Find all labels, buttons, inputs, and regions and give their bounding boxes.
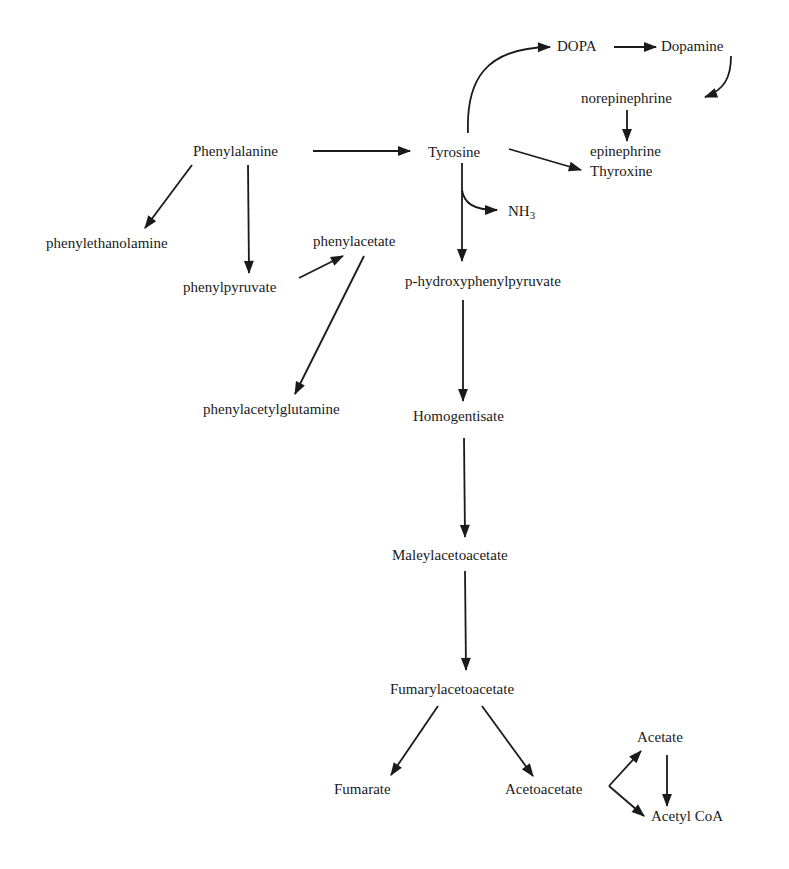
arrow-homogentisate-maleylacetoacetate [464, 438, 465, 537]
node-fumarate: Fumarate [334, 781, 391, 798]
node-phenylalanine: Phenylalanine [193, 143, 278, 160]
arrow-dopamine-norepinephrine [705, 56, 731, 97]
node-nh3: NH3 [508, 203, 535, 224]
nh3-label: NH [508, 203, 530, 219]
arrow-acetoacetate-acetate [609, 751, 641, 786]
arrow-tyrosine-dopa [468, 47, 550, 133]
arrow-acetoacetate-acetyl-coa [609, 786, 644, 816]
arrow-maleylacetoacetate-fumarylacetoacetate [465, 571, 466, 670]
node-phenylpyruvate: phenylpyruvate [183, 279, 276, 296]
node-p-hydroxyphenylpyruvate: p-hydroxyphenylpyruvate [405, 273, 561, 290]
node-homogentisate: Homogentisate [413, 408, 504, 425]
node-epinephrine: epinephrine [590, 143, 661, 160]
phenylalanine-tyrosine-pathway-diagram: Phenylalanine Tyrosine DOPA Dopamine nor… [0, 0, 789, 869]
arrow-phenylacetate-phenylacetylglutamine [295, 256, 364, 394]
nh3-subscript: 3 [530, 209, 536, 221]
arrow-fumarylacetoacetate-acetoacetate [482, 706, 533, 776]
node-fumarylacetoacetate: Fumarylacetoacetate [390, 681, 514, 698]
node-phenylethanolamine: phenylethanolamine [46, 235, 168, 252]
arrow-tyrosine-nh3 [462, 190, 497, 210]
node-phenylacetate: phenylacetate [313, 233, 395, 250]
node-dopa: DOPA [557, 38, 596, 55]
node-acetate: Acetate [637, 729, 683, 746]
node-dopamine: Dopamine [661, 38, 723, 55]
arrow-phenylalanine-phenylethanolamine [145, 165, 192, 228]
node-acetoacetate: Acetoacetate [505, 781, 582, 798]
node-maleylacetoacetate: Maleylacetoacetate [392, 547, 508, 564]
node-phenylacetylglutamine: phenylacetylglutamine [203, 401, 340, 418]
arrow-fumarylacetoacetate-fumarate [391, 706, 438, 775]
arrow-tyrosine-thyroxine [509, 149, 581, 170]
arrow-phenylpyruvate-phenylacetate [299, 256, 343, 278]
node-norepinephrine: norepinephrine [581, 90, 672, 107]
node-tyrosine: Tyrosine [428, 144, 480, 161]
node-acetyl-coa: Acetyl CoA [651, 808, 723, 825]
arrow-phenylalanine-phenylpyruvate [248, 165, 249, 273]
node-thyroxine: Thyroxine [590, 163, 652, 180]
